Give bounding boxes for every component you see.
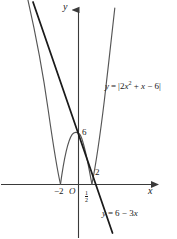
curve-abs-quadratic-left-branch: [28, 0, 61, 184]
x-tick-label-minus-two: −2: [54, 187, 64, 196]
curve-equation-label: y=|2x2 + x − 6|: [105, 82, 161, 91]
origin-label: O: [69, 187, 76, 196]
fraction-numerator: 1: [85, 190, 88, 196]
x-tick-label-one-half: 1 2: [85, 187, 88, 203]
fraction-denominator: 2: [85, 196, 88, 203]
curve-eq-equals: =: [111, 81, 116, 91]
y-axis-label: y: [63, 2, 67, 12]
curve-abs-quadratic-right-branch: [92, 8, 115, 184]
line-eq-equals: =: [108, 208, 113, 218]
line-eq-lhs: y: [102, 208, 106, 218]
graph-canvas: [0, 0, 177, 239]
line-eq-const: 6 − 3: [115, 208, 134, 218]
curve-eq-lhs: y: [105, 81, 109, 91]
line-eq-variable: x: [134, 208, 138, 218]
line-six-minus-three-x: [33, 2, 113, 233]
x-axis-label: x: [148, 186, 152, 196]
point-label-two: 2: [95, 168, 100, 177]
graph-figure: y x O −2 1 2 6 2 y=|2x2 + x − 6| y=6 − 3…: [0, 0, 177, 239]
curve-eq-close: − 6|: [145, 81, 161, 91]
fraction-one-half: 1 2: [85, 190, 88, 204]
point-label-six: 6: [82, 128, 87, 137]
line-equation-label: y=6 − 3x: [102, 209, 138, 218]
curve-eq-tail: +: [131, 81, 141, 91]
